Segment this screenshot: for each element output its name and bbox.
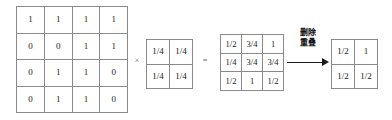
matrix-cell: 0 (17, 60, 45, 87)
right-arrow-head-icon (322, 58, 329, 66)
multiply-operator: × (131, 56, 143, 65)
matrix-cell: 1 (45, 87, 73, 114)
matrix-cell: 1 (73, 87, 101, 114)
matrix-cell: 1 (355, 40, 378, 65)
arrow-caption-line2: 重叠 (286, 38, 330, 48)
matrix-cell: 1 (100, 34, 128, 61)
matrix-cell: 1/4 (147, 40, 170, 65)
kernel-matrix: 1/4 1/4 1/4 1/4 (146, 39, 193, 89)
matrix-cell: 1 (17, 7, 45, 34)
matrix-cell: 1/2 (332, 40, 355, 65)
final-matrix: 1/2 1 1/2 1/2 (331, 39, 378, 89)
matrix-cell: 1/2 (221, 72, 242, 91)
matrix-cell: 3/4 (263, 54, 284, 73)
matrix-cell: 1 (73, 60, 101, 87)
arrow-caption: 删除 重叠 (286, 28, 330, 48)
convolution-diagram: 1 1 1 1 0 0 1 1 0 1 1 0 0 1 1 0 × 1/4 1/… (0, 0, 392, 120)
matrix-cell: 0 (100, 87, 128, 114)
matrix-cell: 1/4 (147, 65, 170, 90)
right-arrow-icon (287, 62, 323, 63)
matrix-cell: 1/2 (221, 35, 242, 54)
transform-arrow-group: 删除 重叠 (286, 28, 330, 70)
input-matrix: 1 1 1 1 0 0 1 1 0 1 1 0 0 1 1 0 (16, 6, 128, 113)
matrix-cell: 1/4 (221, 54, 242, 73)
matrix-cell: 1 (45, 7, 73, 34)
result-matrix: 1/2 3/4 1 1/4 3/4 3/4 1/2 1 1/2 (220, 34, 284, 91)
matrix-cell: 1 (263, 35, 284, 54)
matrix-cell: 0 (45, 34, 73, 61)
matrix-cell: 1/2 (263, 72, 284, 91)
matrix-cell: 1 (100, 7, 128, 34)
matrix-cell: 3/4 (242, 54, 263, 73)
matrix-cell: 3/4 (242, 35, 263, 54)
matrix-cell: 0 (17, 87, 45, 114)
matrix-cell: 1/2 (355, 65, 378, 90)
matrix-cell: 1/4 (170, 40, 193, 65)
matrix-cell: 1/4 (170, 65, 193, 90)
arrow-caption-line1: 删除 (300, 28, 316, 37)
matrix-cell: 0 (17, 34, 45, 61)
matrix-cell: 1 (73, 34, 101, 61)
matrix-cell: 1 (73, 7, 101, 34)
matrix-cell: 0 (100, 60, 128, 87)
matrix-cell: 1 (45, 60, 73, 87)
matrix-cell: 1 (242, 72, 263, 91)
matrix-cell: 1/2 (332, 65, 355, 90)
equals-operator: = (198, 56, 212, 65)
